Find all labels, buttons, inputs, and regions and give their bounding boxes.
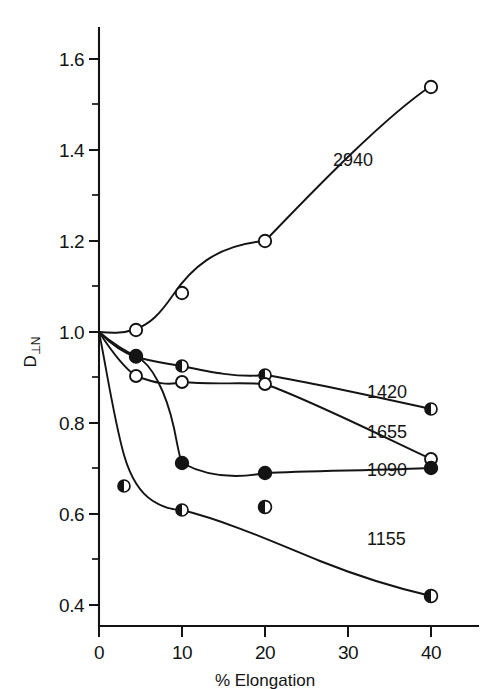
data-point	[118, 480, 130, 492]
x-tick-label-40: 40	[421, 642, 441, 663]
y-tick-label-0.8: 0.8	[59, 413, 84, 434]
data-point	[176, 360, 188, 372]
series-label-1090: 1090	[367, 460, 407, 480]
x-tick-label-20: 20	[255, 642, 275, 663]
y-tick-label-1.4: 1.4	[59, 140, 85, 161]
y-axis-title-perp-icon: ⊥	[29, 345, 43, 355]
series-2940-line	[99, 86, 431, 333]
data-point	[425, 590, 438, 603]
data-point	[130, 370, 142, 382]
data-point	[259, 235, 271, 247]
y-tick-label-0.4: 0.4	[59, 595, 85, 616]
x-axis-title: % Elongation	[215, 671, 315, 689]
data-point	[176, 376, 188, 388]
data-point	[259, 467, 272, 480]
y-axis-title-base: D	[21, 355, 40, 367]
series-2940: 2940	[99, 81, 437, 336]
series-label-1420: 1420	[367, 382, 407, 402]
series-1420: 1420	[99, 332, 437, 415]
series-label-2940: 2940	[333, 150, 373, 170]
series-label-1155: 1155	[367, 529, 406, 549]
y-axis-ticks	[89, 59, 99, 605]
y-axis-title: D⊥N	[21, 337, 43, 368]
data-point-outlier	[259, 501, 272, 514]
y-tick-label-1.0: 1.0	[59, 322, 84, 343]
figure-panel: 1.6 1.4 1.2 1.0 0.8 0.6 0.4 0 10 20 30 4…	[0, 0, 502, 689]
x-tick-label-10: 10	[172, 642, 192, 663]
data-point	[425, 81, 437, 93]
x-axis-tick-labels: 0 10 20 30 40	[94, 642, 441, 663]
data-point	[425, 462, 438, 475]
line-chart: 1.6 1.4 1.2 1.0 0.8 0.6 0.4 0 10 20 30 4…	[0, 0, 502, 689]
x-tick-label-0: 0	[94, 642, 104, 663]
data-point	[176, 287, 188, 299]
y-tick-label-1.6: 1.6	[59, 49, 84, 70]
x-axis-ticks	[99, 626, 431, 637]
y-axis-title-group: D⊥N	[21, 337, 43, 368]
data-point	[176, 457, 189, 470]
axes-group	[99, 28, 478, 626]
y-tick-label-0.6: 0.6	[59, 504, 84, 525]
y-axis-tick-labels: 1.6 1.4 1.2 1.0 0.8 0.6 0.4	[59, 49, 85, 616]
y-axis-title-sub-n: N	[29, 337, 43, 346]
data-point	[425, 403, 437, 415]
x-tick-label-30: 30	[338, 642, 358, 663]
y-tick-label-1.2: 1.2	[59, 231, 84, 252]
series-label-1655: 1655	[367, 422, 407, 442]
series-1090: 1090	[99, 332, 437, 480]
data-point	[130, 350, 143, 363]
series-1090-line	[99, 332, 431, 476]
data-point	[259, 378, 271, 390]
data-point	[176, 504, 188, 516]
data-point	[130, 324, 142, 336]
